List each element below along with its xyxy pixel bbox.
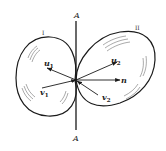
label-u1: u1 bbox=[44, 58, 54, 69]
label-n: n bbox=[121, 75, 127, 85]
body-ii-outline bbox=[76, 31, 155, 106]
diagram-canvas: A A I II u1 u2 v1 v2 n bbox=[0, 0, 166, 151]
body-i-label: I bbox=[42, 29, 45, 36]
body-ii-label: II bbox=[135, 24, 140, 31]
vector-v1 bbox=[42, 80, 76, 88]
label-v1: v1 bbox=[40, 87, 49, 98]
vector-u1 bbox=[47, 68, 76, 80]
collision-diagram: A A I II u1 u2 v1 v2 n bbox=[0, 0, 166, 151]
axis-label-bottom: A bbox=[72, 134, 79, 143]
label-v2: v2 bbox=[102, 92, 111, 103]
axis-label-top: A bbox=[73, 11, 80, 20]
body-ii-hatching bbox=[103, 36, 146, 99]
label-u2: u2 bbox=[111, 55, 121, 66]
